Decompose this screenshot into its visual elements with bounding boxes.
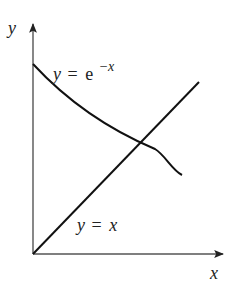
exp-vs-identity-diagram: y x y = e −x y = x	[0, 0, 241, 284]
y-axis-label: y	[6, 18, 16, 38]
identity-label: y = x	[75, 215, 117, 235]
svg-text:y = x: y = x	[75, 215, 117, 235]
x-axis-label: x	[209, 263, 218, 283]
exp-decay-label: y = e −x	[51, 59, 115, 84]
svg-text:y = e −x: y = e −x	[51, 59, 115, 84]
exp-label-base: e	[85, 64, 93, 84]
exp-label-eq: =	[68, 64, 78, 84]
identity-label-rhs: x	[108, 215, 117, 235]
exp-label-exponent: −x	[99, 59, 115, 74]
identity-label-eq: =	[92, 215, 102, 235]
identity-label-lhs: y	[75, 215, 85, 235]
exp-label-lhs: y	[51, 64, 61, 84]
